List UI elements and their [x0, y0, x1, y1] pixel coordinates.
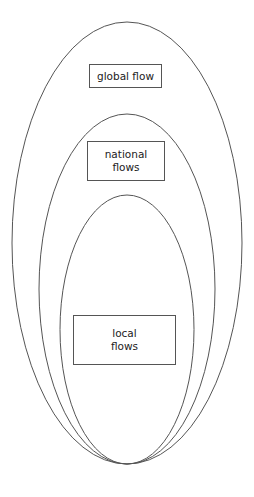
global-flow-label: global flow	[89, 64, 162, 88]
national-flows-label: national flows	[87, 141, 165, 181]
local-flows-label: local flows	[73, 315, 176, 365]
global-ellipse	[12, 22, 242, 464]
